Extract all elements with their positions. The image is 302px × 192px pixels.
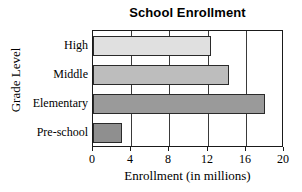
- x-tick-label-0: 0: [77, 152, 107, 166]
- x-tick-mark: [207, 147, 208, 151]
- bars-layer: [93, 31, 282, 146]
- x-tick-mark: [92, 147, 93, 151]
- x-axis-title: Enrollment (in millions): [92, 168, 283, 184]
- y-tick-label-pre-school: Pre-school: [37, 126, 88, 138]
- y-tick-label-high: High: [64, 39, 88, 51]
- chart-title: School Enrollment: [92, 5, 283, 20]
- x-tick-label-12: 12: [192, 152, 222, 166]
- chart-screenshot: School Enrollment HighMiddleElementaryPr…: [0, 0, 302, 192]
- plot-area: [92, 30, 283, 147]
- x-tick-label-4: 4: [115, 152, 145, 166]
- x-axis-tick-labels: 048121620: [92, 152, 283, 168]
- x-tick-mark: [130, 147, 131, 151]
- bar-pre-school: [93, 123, 122, 143]
- bar-high: [93, 36, 211, 56]
- x-tick-mark: [283, 147, 284, 151]
- x-tick-label-8: 8: [153, 152, 183, 166]
- y-tick-label-elementary: Elementary: [33, 97, 88, 109]
- bar-middle: [93, 65, 229, 85]
- x-tick-label-16: 16: [230, 152, 260, 166]
- y-tick-label-middle: Middle: [53, 68, 88, 80]
- y-axis-title: Grade Level: [8, 20, 24, 140]
- x-tick-mark: [168, 147, 169, 151]
- x-tick-mark: [245, 147, 246, 151]
- bar-elementary: [93, 94, 265, 114]
- x-tick-label-20: 20: [268, 152, 298, 166]
